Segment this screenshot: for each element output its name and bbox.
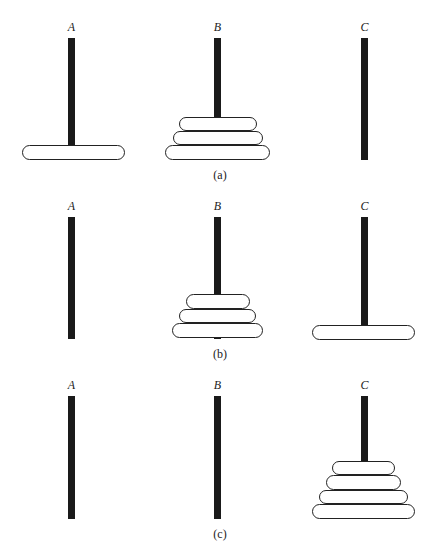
peg-label-c: C [360, 378, 368, 393]
peg-label-b: B [214, 378, 221, 393]
disk-on-peg-b [173, 131, 263, 145]
peg-a [68, 396, 75, 519]
peg-label-a: A [68, 199, 75, 214]
peg-c [361, 38, 368, 160]
peg-label-a: A [68, 20, 75, 35]
disk-on-peg-c [312, 504, 415, 519]
disk-on-peg-c [312, 325, 415, 340]
panel-caption: (b) [213, 347, 227, 362]
disk-on-peg-c [332, 461, 395, 475]
peg-label-a: A [68, 378, 75, 393]
disk-on-peg-b [186, 294, 250, 309]
disk-on-peg-c [319, 490, 408, 504]
peg-label-b: B [214, 199, 221, 214]
panel-caption: (a) [213, 168, 226, 183]
peg-a [68, 217, 75, 339]
peg-label-c: C [360, 199, 368, 214]
peg-b [214, 396, 221, 519]
disk-on-peg-b [172, 323, 263, 338]
disk-on-peg-c [326, 475, 401, 490]
disk-on-peg-a [22, 145, 125, 160]
peg-a [68, 38, 75, 160]
disk-on-peg-b [165, 145, 270, 160]
peg-label-b: B [214, 20, 221, 35]
disk-on-peg-b [179, 309, 256, 323]
peg-c [361, 217, 368, 339]
disk-on-peg-b [179, 117, 257, 131]
peg-label-c: C [360, 20, 368, 35]
panel-caption: (c) [213, 527, 226, 542]
